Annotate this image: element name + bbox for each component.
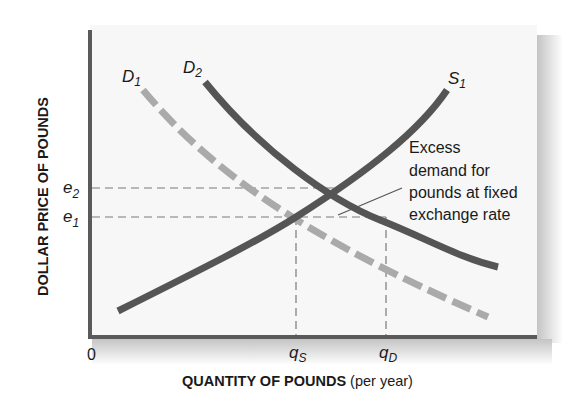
origin-label: 0 — [87, 346, 96, 363]
panel-shadow-right — [537, 35, 563, 343]
panel-shadow-bottom — [92, 339, 552, 365]
x-axis-title: QUANTITY OF POUNDS(per year) — [182, 373, 413, 389]
y-axis-title: DOLLAR PRICE OF POUNDS — [35, 97, 51, 296]
chart-figure: D1 D2 S1 e2 e1 0 qS qD Excess demand for… — [0, 0, 571, 416]
y-tick-e1: e1 — [63, 207, 79, 230]
y-tick-e2: e2 — [63, 178, 79, 201]
